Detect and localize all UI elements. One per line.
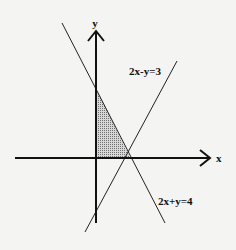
line-label-2x-plus-y: 2x+y=4 (158, 195, 193, 207)
y-axis-label: y (92, 17, 98, 29)
graph-diagram: y x 2x-y=3 2x+y=4 (0, 0, 236, 250)
x-axis-label: x (216, 152, 222, 164)
line-label-2x-minus-y: 2x-y=3 (129, 65, 161, 77)
line-2x-plus-y-eq-4 (62, 23, 165, 223)
